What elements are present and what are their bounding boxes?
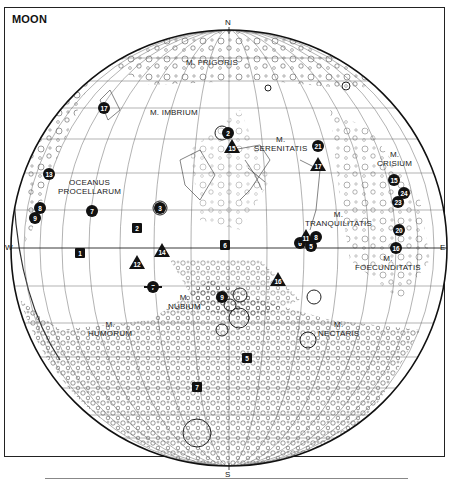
mare-nubium-label: M.NUBIUM	[168, 293, 201, 311]
circle-marker-icon: 5	[305, 240, 317, 252]
circle-marker-icon: 17	[98, 102, 110, 114]
circle-marker-icon: 21	[312, 140, 324, 152]
mare-serenitatis-label: M.SERENITATIS	[254, 135, 307, 153]
mare-crisium-label: M.CRISIUM	[377, 150, 412, 168]
circle-marker-icon: 9	[29, 212, 41, 224]
mare-imbrium-label: M. IMBRIUM	[150, 108, 198, 117]
moon-map-illustration	[0, 0, 449, 500]
bottom-divider	[45, 478, 408, 479]
square-marker-icon: 5	[242, 353, 252, 363]
square-marker-icon: 1	[75, 248, 85, 258]
star-marker-icon: 7	[147, 281, 159, 293]
circle-marker-icon: 9	[216, 291, 228, 303]
east-label: E	[440, 243, 445, 252]
oceanus-procellarum-label: OCEANUSPROCELLARUM	[58, 178, 121, 196]
circle-marker-icon: 16	[390, 242, 402, 254]
circle-marker-icon: 13	[43, 168, 55, 180]
circle-marker-icon: 20	[393, 224, 405, 236]
square-marker-icon: 6	[220, 240, 230, 250]
mare-frigoris-label: M. FRIGORIS	[186, 58, 238, 67]
north-label: N	[225, 18, 231, 27]
mare-tranquilitatis-label: M.TRANQUILITATIS	[305, 210, 372, 228]
circle-marker-icon: 2	[222, 127, 234, 139]
circle-marker-icon: 3	[154, 202, 166, 214]
mare-humorum-label: M.HUMORUM	[88, 320, 132, 338]
circle-marker-icon: 23	[392, 196, 404, 208]
mare-foecunditatis-label: M.FOECUNDITATIS	[355, 254, 421, 272]
square-marker-icon: 2	[132, 223, 142, 233]
mare-nectaris-label: M.NECTARIS	[318, 320, 359, 338]
circle-marker-icon: 15	[388, 174, 400, 186]
square-marker-icon: 7	[192, 382, 202, 392]
circle-marker-icon: 7	[86, 205, 98, 217]
west-label: W	[5, 243, 13, 252]
